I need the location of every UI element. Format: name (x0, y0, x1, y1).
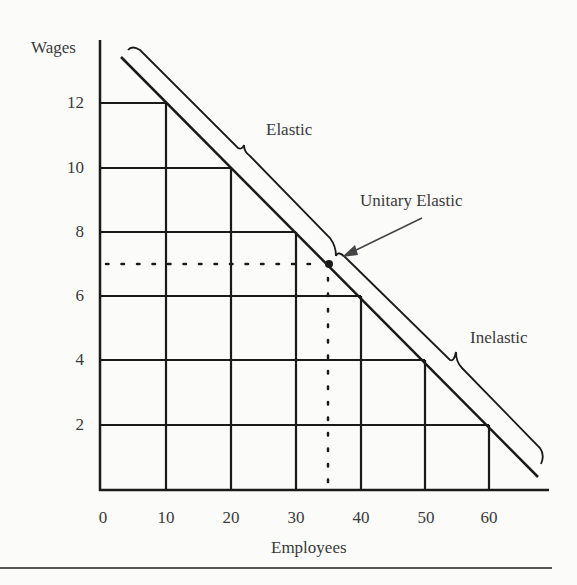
inelastic-label: Inelastic (470, 328, 528, 348)
y-tick-12: 12 (54, 93, 84, 113)
y-tick-10: 10 (54, 158, 84, 178)
y-tick-6: 6 (54, 286, 84, 306)
x-tick-0: 0 (88, 508, 118, 528)
x-axis-label: Employees (271, 538, 347, 558)
unitary-arrow (342, 218, 422, 257)
revenue-rectangles (100, 103, 489, 490)
unitary-elastic-label: Unitary Elastic (360, 191, 462, 211)
x-tick-60: 60 (474, 508, 504, 528)
x-tick-20: 20 (216, 508, 246, 528)
x-tick-50: 50 (411, 508, 441, 528)
y-tick-8: 8 (54, 222, 84, 242)
elasticity-brace (128, 48, 543, 465)
bottom-rule (0, 567, 552, 569)
demand-elasticity-chart (0, 0, 577, 585)
unitary-point (325, 260, 333, 268)
x-tick-40: 40 (346, 508, 376, 528)
y-tick-4: 4 (54, 350, 84, 370)
y-tick-2: 2 (54, 415, 84, 435)
y-axis-label: Wages (31, 38, 76, 58)
x-tick-10: 10 (151, 508, 181, 528)
x-tick-30: 30 (281, 508, 311, 528)
elastic-label: Elastic (266, 120, 312, 140)
